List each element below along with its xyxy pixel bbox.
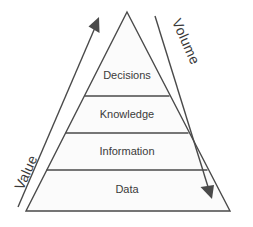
tier-label-information: Information (99, 145, 154, 157)
tier-label-knowledge: Knowledge (100, 108, 154, 120)
dikw-pyramid-diagram: Decisions Knowledge Information Data Val… (0, 0, 253, 227)
axis-label-value: Value (11, 153, 40, 193)
tier-label-decisions: Decisions (103, 69, 151, 81)
value-axis-label-group: Value (11, 153, 40, 193)
axis-label-volume: Volume (169, 16, 203, 67)
tier-label-data: Data (115, 183, 139, 195)
pyramid-canvas: Decisions Knowledge Information Data Val… (0, 0, 253, 227)
volume-axis-label-group: Volume (169, 16, 203, 67)
